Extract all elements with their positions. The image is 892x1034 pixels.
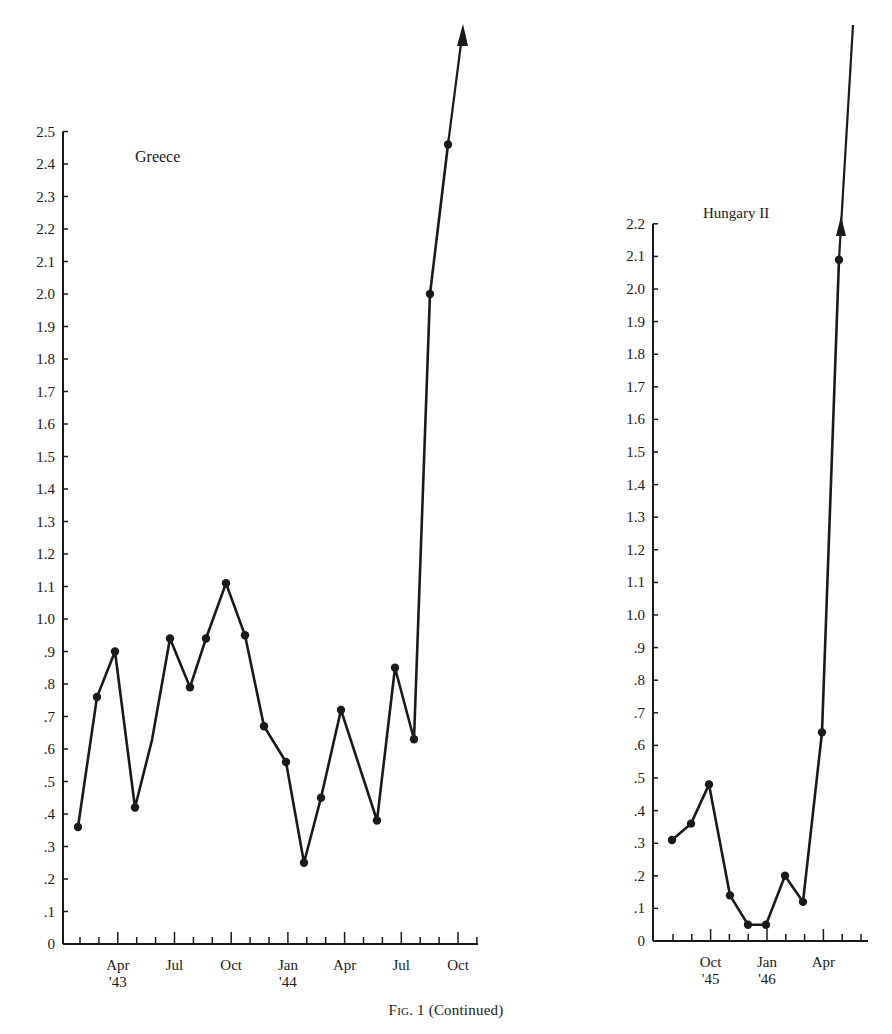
data-point	[410, 735, 418, 743]
data-point	[835, 255, 843, 263]
y-tick-label: 1.8	[626, 346, 645, 362]
data-point	[744, 921, 752, 929]
x-tick-label: Oct	[220, 957, 242, 973]
hungary-x-axis: Oct'45Jan'46Apr	[653, 929, 868, 987]
y-tick-label: 1.2	[626, 542, 645, 558]
x-tick-label: Jul	[166, 957, 184, 973]
y-tick-label: 2.1	[36, 254, 55, 270]
data-point	[111, 647, 119, 655]
y-tick-label: 1.0	[36, 611, 55, 627]
y-tick-label: .2	[634, 868, 645, 884]
y-tick-label: 1.7	[36, 384, 55, 400]
arrow-up-icon	[836, 216, 846, 236]
data-point	[222, 579, 230, 587]
greece-title: Greece	[135, 148, 180, 165]
hungary-title: Hungary II	[703, 205, 769, 221]
data-point	[444, 140, 452, 148]
y-tick-label: 1.9	[626, 314, 645, 330]
data-point	[317, 794, 325, 802]
series-line	[672, 260, 839, 925]
y-tick-label: 1.3	[626, 509, 645, 525]
y-tick-label: 2.2	[36, 221, 55, 237]
data-point	[705, 780, 713, 788]
y-tick-label: .3	[44, 839, 55, 855]
y-tick-label: .2	[44, 871, 55, 887]
data-point	[74, 823, 82, 831]
data-point	[300, 859, 308, 867]
y-tick-label: 1.2	[36, 546, 55, 562]
x-tick-year-label: '45	[702, 971, 720, 987]
y-tick-label: .4	[634, 803, 646, 819]
x-tick-label: Jan	[757, 954, 777, 970]
y-tick-label: .7	[634, 705, 646, 721]
hungary-chart: Hungary II 0.1.2.3.4.5.6.7.8.91.01.11.21…	[626, 25, 868, 987]
x-tick-year-label: '44	[279, 974, 297, 990]
y-tick-label: 1.7	[626, 379, 645, 395]
x-tick-label: Apr	[812, 954, 835, 970]
data-point	[337, 706, 345, 714]
y-tick-label: .1	[634, 900, 645, 916]
y-tick-label: .6	[44, 741, 56, 757]
x-tick-label: Apr	[106, 957, 129, 973]
data-point	[202, 634, 210, 642]
y-tick-label: .3	[634, 835, 645, 851]
data-point	[818, 728, 826, 736]
arrow-up-icon	[457, 24, 468, 46]
y-tick-label: 2.3	[36, 189, 55, 205]
y-tick-label: .9	[634, 640, 645, 656]
data-point	[426, 290, 434, 298]
y-tick-label: 1.6	[36, 416, 55, 432]
y-tick-label: .1	[44, 904, 55, 920]
x-tick-label: Jan	[278, 957, 298, 973]
y-tick-label: 1.5	[626, 444, 645, 460]
y-tick-label: 1.4	[626, 477, 645, 493]
figure: Greece 0.1.2.3.4.5.6.7.8.91.01.11.21.31.…	[0, 0, 892, 1034]
x-tick-label: Apr	[333, 957, 356, 973]
data-point	[781, 872, 789, 880]
y-tick-label: 2.4	[36, 156, 55, 172]
greece-x-axis: Apr'43JulOctJan'44AprJulOct	[63, 932, 478, 990]
y-tick-label: 2.5	[36, 124, 55, 140]
y-tick-label: .8	[44, 676, 55, 692]
data-point	[687, 819, 695, 827]
data-point	[391, 664, 399, 672]
y-tick-label: 2.0	[36, 286, 55, 302]
greece-series-line	[74, 24, 468, 867]
x-tick-label: Jul	[393, 957, 411, 973]
y-tick-label: 1.4	[36, 481, 55, 497]
caption-fig-label: Fig.	[389, 1002, 414, 1018]
y-tick-label: 2.1	[626, 248, 645, 264]
y-tick-label: .8	[634, 672, 645, 688]
data-point	[373, 816, 381, 824]
y-tick-label: 1.9	[36, 319, 55, 335]
y-tick-label: 1.1	[36, 579, 55, 595]
data-point	[93, 693, 101, 701]
hungary-series-line	[668, 25, 853, 929]
data-point	[799, 898, 807, 906]
y-tick-label: 1.8	[36, 351, 55, 367]
y-tick-label: 0	[638, 933, 646, 949]
y-tick-label: 2.2	[626, 216, 645, 232]
caption-fig-number: 1	[417, 1002, 425, 1018]
y-tick-label: .6	[634, 737, 646, 753]
x-tick-year-label: '46	[758, 971, 776, 987]
series-line	[78, 145, 448, 863]
y-tick-label: 1.0	[626, 607, 645, 623]
x-tick-label: Oct	[700, 954, 722, 970]
y-tick-label: .4	[44, 806, 56, 822]
y-tick-label: 2.0	[626, 281, 645, 297]
y-tick-label: 0	[48, 936, 56, 952]
data-point	[668, 836, 676, 844]
data-point	[186, 683, 194, 691]
y-tick-label: .5	[44, 774, 55, 790]
greece-chart: Greece 0.1.2.3.4.5.6.7.8.91.01.11.21.31.…	[36, 24, 478, 990]
greece-y-axis: 0.1.2.3.4.5.6.7.8.91.01.11.21.31.41.51.6…	[36, 124, 68, 953]
data-point	[260, 722, 268, 730]
y-tick-label: .9	[44, 644, 55, 660]
y-tick-label: 1.1	[626, 574, 645, 590]
y-tick-label: 1.6	[626, 411, 645, 427]
data-point	[762, 921, 770, 929]
hungary-y-axis: 0.1.2.3.4.5.6.7.8.91.01.11.21.31.41.51.6…	[626, 216, 658, 949]
figure-caption: Fig. 1 (Continued)	[0, 1002, 892, 1019]
y-tick-label: .7	[44, 709, 56, 725]
